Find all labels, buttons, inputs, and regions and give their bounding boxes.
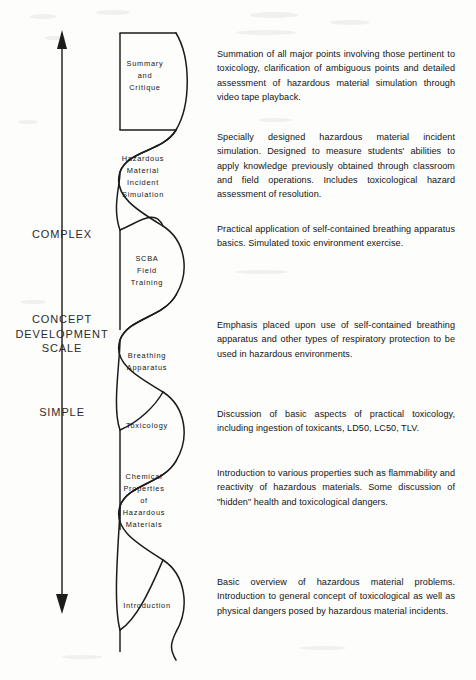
axis-label-complex: COMPLEX <box>6 227 118 242</box>
diagram-page: COMPLEX CONCEPT DEVELOPMENT SCALE SIMPLE… <box>0 0 476 680</box>
stage-label-chemical-properties-of-hazardous-materials: Chemical Properties of Hazardous Materia… <box>101 471 187 531</box>
axis-label-concept-development-scale: CONCEPT DEVELOPMENT SCALE <box>6 312 118 356</box>
description-summary-and-critique: Summation of all major points involving … <box>217 47 455 104</box>
stage-label-scba-field-training: SCBA Field Training <box>104 253 190 289</box>
axis-label-simple: SIMPLE <box>6 405 118 420</box>
arrow-down-icon <box>56 594 68 614</box>
stage-label-introduction: Introduction <box>104 600 190 612</box>
stage-label-breathing-apparatus: Breathing Apparatus <box>104 350 190 374</box>
description-hazardous-material-incident-simulation: Specially designed hazardous material in… <box>217 130 455 202</box>
description-chemical-properties-of-hazardous-materials: Introduction to various properties such … <box>217 466 455 509</box>
serpentine-curve <box>116 33 187 660</box>
description-toxicology: Discussion of basic aspects of practical… <box>217 407 455 436</box>
description-introduction: Basic overview of hazardous material pro… <box>217 575 455 618</box>
description-breathing-apparatus: Emphasis placed upon use of self-contain… <box>217 318 455 361</box>
stage-label-summary-and-critique: Summary and Critique <box>102 58 188 94</box>
stage-label-hazardous-material-incident-simulation: Hazardous Material Incident Simulation <box>100 153 186 201</box>
stage-label-toxicology: Toxicology <box>104 420 190 432</box>
description-scba-field-training: Practical application of self-contained … <box>217 222 455 251</box>
